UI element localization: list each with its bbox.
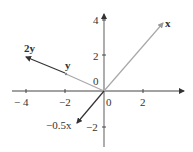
- vector-neg-half-x: [77, 91, 104, 123]
- vector-2y: [26, 57, 65, 73]
- x-tick-label-neg4: − 4: [14, 96, 29, 108]
- x-tick-label-0: 0: [106, 96, 112, 108]
- vector-y-label: y: [65, 59, 71, 71]
- x-tick-label-neg2: −2: [59, 96, 71, 108]
- y-tick-label-neg2: −2: [86, 121, 98, 133]
- vector-y-tip: [65, 73, 67, 75]
- vector-x: [104, 23, 163, 91]
- x-tick-label-2: 2: [140, 96, 146, 108]
- vector-x-label: x: [165, 17, 171, 29]
- vector-2y-label: 2y: [24, 42, 36, 54]
- vector-neg-half-x-label: −0.5x: [46, 119, 72, 131]
- y-tick-label-4: 4: [93, 14, 99, 26]
- y-tick-label-2: 2: [93, 50, 99, 62]
- vector-diagram: − 4 −2 0 2 4 2 0 −2 x 2y y −0.5x: [0, 0, 193, 152]
- y-tick-label-0: 0: [93, 75, 99, 87]
